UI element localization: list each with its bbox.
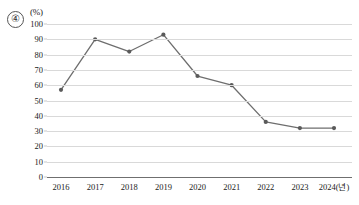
gridline — [47, 162, 352, 163]
gridline — [47, 116, 352, 117]
gridline — [47, 101, 352, 102]
data-point-marker — [298, 126, 302, 130]
gridline — [47, 39, 352, 40]
gridline — [47, 146, 352, 147]
gridline — [47, 55, 352, 56]
y-axis-tick-mark — [44, 54, 47, 55]
y-axis-tick-mark — [44, 131, 47, 132]
y-axis-unit-label: (%) — [30, 7, 43, 17]
y-axis-tick-mark — [44, 24, 47, 25]
y-axis-tick-mark — [44, 146, 47, 147]
x-axis-tick-label: 2024(년) — [319, 183, 350, 192]
y-axis-tick-label: 40 — [35, 112, 44, 121]
y-axis-tick-mark — [44, 85, 47, 86]
y-axis-tick-mark — [44, 69, 47, 70]
data-point-marker — [59, 88, 63, 92]
gridline — [47, 24, 352, 25]
x-axis-tick-label: 2017 — [87, 183, 104, 192]
y-axis-tick-label: 10 — [35, 157, 44, 166]
data-point-marker — [195, 74, 199, 78]
x-axis-tick-label: 2020 — [189, 183, 206, 192]
y-axis-tick-label: 100 — [30, 20, 43, 29]
x-axis-baseline — [47, 177, 352, 178]
gridline — [47, 85, 352, 86]
y-axis-tick-label: 70 — [35, 66, 44, 75]
chart-figure: ④ (%) 0102030405060708090100201620172018… — [0, 0, 359, 205]
data-point-marker — [127, 49, 131, 53]
x-axis-tick-label: 2023 — [291, 183, 308, 192]
data-point-marker — [161, 33, 165, 37]
gridline — [47, 131, 352, 132]
x-axis-tick-label: 2019 — [155, 183, 172, 192]
y-axis-tick-label: 60 — [35, 81, 44, 90]
x-axis-tick-label: 2021 — [223, 183, 240, 192]
series-line — [61, 35, 334, 128]
y-axis-tick-label: 90 — [35, 35, 44, 44]
y-axis-tick-label: 20 — [35, 142, 44, 151]
y-axis-tick-label: 0 — [39, 173, 43, 182]
y-axis-tick-mark — [44, 177, 47, 178]
y-axis-tick-label: 30 — [35, 127, 44, 136]
x-axis-tick-label: 2018 — [121, 183, 138, 192]
item-number-badge: ④ — [7, 11, 24, 28]
gridline — [47, 70, 352, 71]
y-axis-tick-mark — [44, 161, 47, 162]
y-axis-tick-mark — [44, 100, 47, 101]
x-axis-tick-label: 2016 — [53, 183, 70, 192]
y-axis-tick-mark — [44, 39, 47, 40]
y-axis-tick-label: 80 — [35, 50, 44, 59]
data-point-marker — [332, 126, 336, 130]
data-point-marker — [264, 120, 268, 124]
y-axis-tick-mark — [44, 115, 47, 116]
plot-area: 0102030405060708090100201620172018201920… — [47, 24, 352, 177]
x-axis-tick-label: 2022 — [257, 183, 274, 192]
y-axis-tick-label: 50 — [35, 96, 44, 105]
